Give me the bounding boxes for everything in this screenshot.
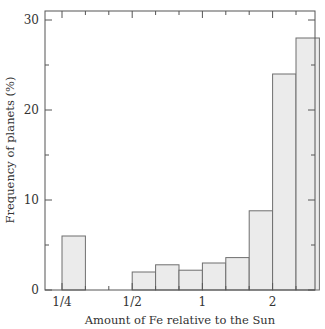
histogram-bar bbox=[249, 211, 272, 290]
histogram-bar bbox=[62, 236, 85, 290]
y-axis-label: Frequency of planets (%) bbox=[3, 77, 17, 224]
x-tick-label: 1/2 bbox=[123, 295, 142, 309]
histogram-bars bbox=[62, 38, 319, 290]
histogram-bar bbox=[226, 258, 249, 290]
histogram-bar bbox=[296, 38, 319, 290]
x-tick-label: 1 bbox=[199, 295, 207, 309]
histogram-bar bbox=[179, 270, 202, 290]
y-tick-label: 20 bbox=[24, 103, 39, 117]
y-tick-label: 0 bbox=[31, 283, 39, 297]
y-tick-label: 30 bbox=[24, 13, 39, 27]
histogram-bar bbox=[202, 263, 225, 290]
y-tick-label: 10 bbox=[24, 193, 39, 207]
histogram-chart: 0102030 1/41/212 Amount of Fe relative t… bbox=[0, 0, 325, 329]
histogram-bar bbox=[273, 74, 296, 290]
x-tick-label: 1/4 bbox=[52, 295, 72, 309]
histogram-bar bbox=[156, 265, 179, 290]
x-axis-label: Amount of Fe relative to the Sun bbox=[84, 313, 276, 327]
histogram-bar bbox=[132, 272, 155, 290]
x-tick-label: 2 bbox=[269, 295, 277, 309]
